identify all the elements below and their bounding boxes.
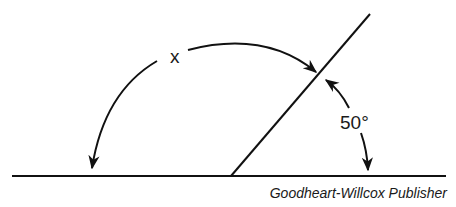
- angle-x-arc-right: [188, 44, 316, 72]
- angle-diagram: x 50° Goodheart-Willcox Publisher: [0, 0, 456, 207]
- angle-50-label: 50°: [340, 112, 369, 133]
- angle-50-arc-upper: [326, 80, 349, 108]
- transversal-line: [231, 14, 370, 176]
- angle-50-arc-lower: [361, 133, 368, 170]
- publisher-credit: Goodheart-Willcox Publisher: [270, 185, 449, 201]
- angle-x-arc-left: [92, 61, 157, 168]
- angle-x-label: x: [170, 46, 180, 67]
